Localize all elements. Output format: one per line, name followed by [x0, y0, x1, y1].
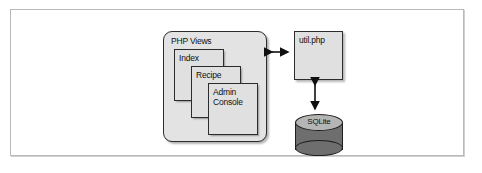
cylinder-bottom-ellipse [295, 140, 343, 156]
view-card-recipe-label: Recipe [196, 70, 221, 80]
view-card-index-label: Index [179, 53, 199, 63]
util-php-label: util.php [299, 35, 325, 45]
bidirectional-arrow-icon-views-util [265, 46, 295, 58]
view-card-admin-console: Admin Console [208, 83, 258, 135]
diagram-canvas: PHP Views Index Recipe Admin Console uti… [0, 0, 482, 173]
sqlite-database-node: SQLite [295, 114, 343, 156]
sqlite-label: SQLite [295, 117, 343, 126]
util-php-node: util.php [294, 31, 343, 80]
diagram-frame: PHP Views Index Recipe Admin Console uti… [10, 9, 464, 156]
bidirectional-arrow-icon-util-sqlite [309, 78, 321, 116]
php-views-label: PHP Views [171, 36, 211, 46]
view-card-admin-console-label: Admin Console [213, 87, 243, 107]
